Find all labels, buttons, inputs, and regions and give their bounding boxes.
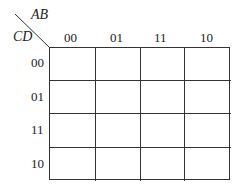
- cell-00-11: [141, 48, 185, 81]
- cell-01-10: [185, 81, 231, 114]
- col-header-10: 10: [200, 31, 213, 45]
- row-variables-label: CD: [13, 30, 32, 44]
- cell-01-00: [50, 81, 96, 114]
- cell-11-00: [50, 114, 96, 148]
- cell-11-10: [185, 114, 231, 148]
- col-header-11: 11: [154, 31, 167, 45]
- row-header-00: 00: [31, 56, 44, 70]
- cell-10-01: [96, 148, 141, 181]
- cell-00-01: [96, 48, 141, 81]
- cell-01-11: [141, 81, 185, 114]
- cell-10-10: [185, 148, 231, 181]
- row-header-10: 10: [31, 157, 44, 171]
- cell-10-11: [141, 148, 185, 181]
- cell-11-01: [96, 114, 141, 148]
- cell-00-00: [50, 48, 96, 81]
- row-header-11: 11: [31, 123, 44, 137]
- cell-11-11: [141, 114, 185, 148]
- kmap-grid: [49, 47, 230, 180]
- row-header-01: 01: [31, 90, 44, 104]
- col-header-01: 01: [110, 31, 123, 45]
- cell-10-00: [50, 148, 96, 181]
- col-header-00: 00: [64, 31, 77, 45]
- col-variables-label: AB: [31, 8, 48, 22]
- cell-00-10: [185, 48, 231, 81]
- cell-01-01: [96, 81, 141, 114]
